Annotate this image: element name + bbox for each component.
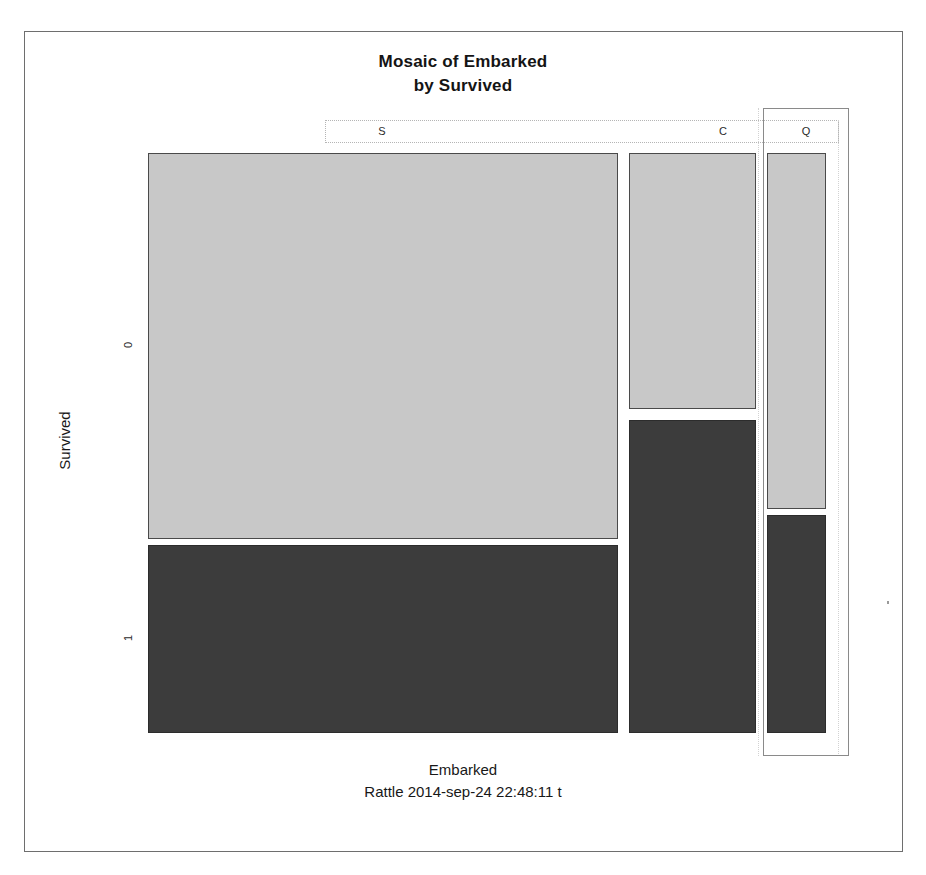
x-axis-title: Embarked <box>0 761 926 778</box>
guide-line-left <box>758 108 759 756</box>
rattle-timestamp-caption: Rattle 2014-sep-24 22:48:11 t <box>0 783 926 800</box>
column-label-s: S <box>330 121 434 142</box>
row-label-survived-0: 0 <box>122 325 134 365</box>
image-speck-artifact <box>887 601 889 604</box>
mosaic-plot-figure: Mosaic of Embarked by Survived Survived … <box>0 0 926 875</box>
plot-title-line-2: by Survived <box>0 76 926 96</box>
mosaic-tile-s-1 <box>148 545 618 733</box>
mosaic-tile-c-0 <box>629 153 756 409</box>
mosaic-tile-c-1 <box>629 420 756 733</box>
plot-title-line-1: Mosaic of Embarked <box>0 52 926 72</box>
y-axis-title: Survived <box>56 361 73 521</box>
mosaic-tile-s-0 <box>148 153 618 539</box>
column-highlight-rect-q <box>763 108 849 756</box>
row-label-survived-1: 1 <box>122 618 134 658</box>
